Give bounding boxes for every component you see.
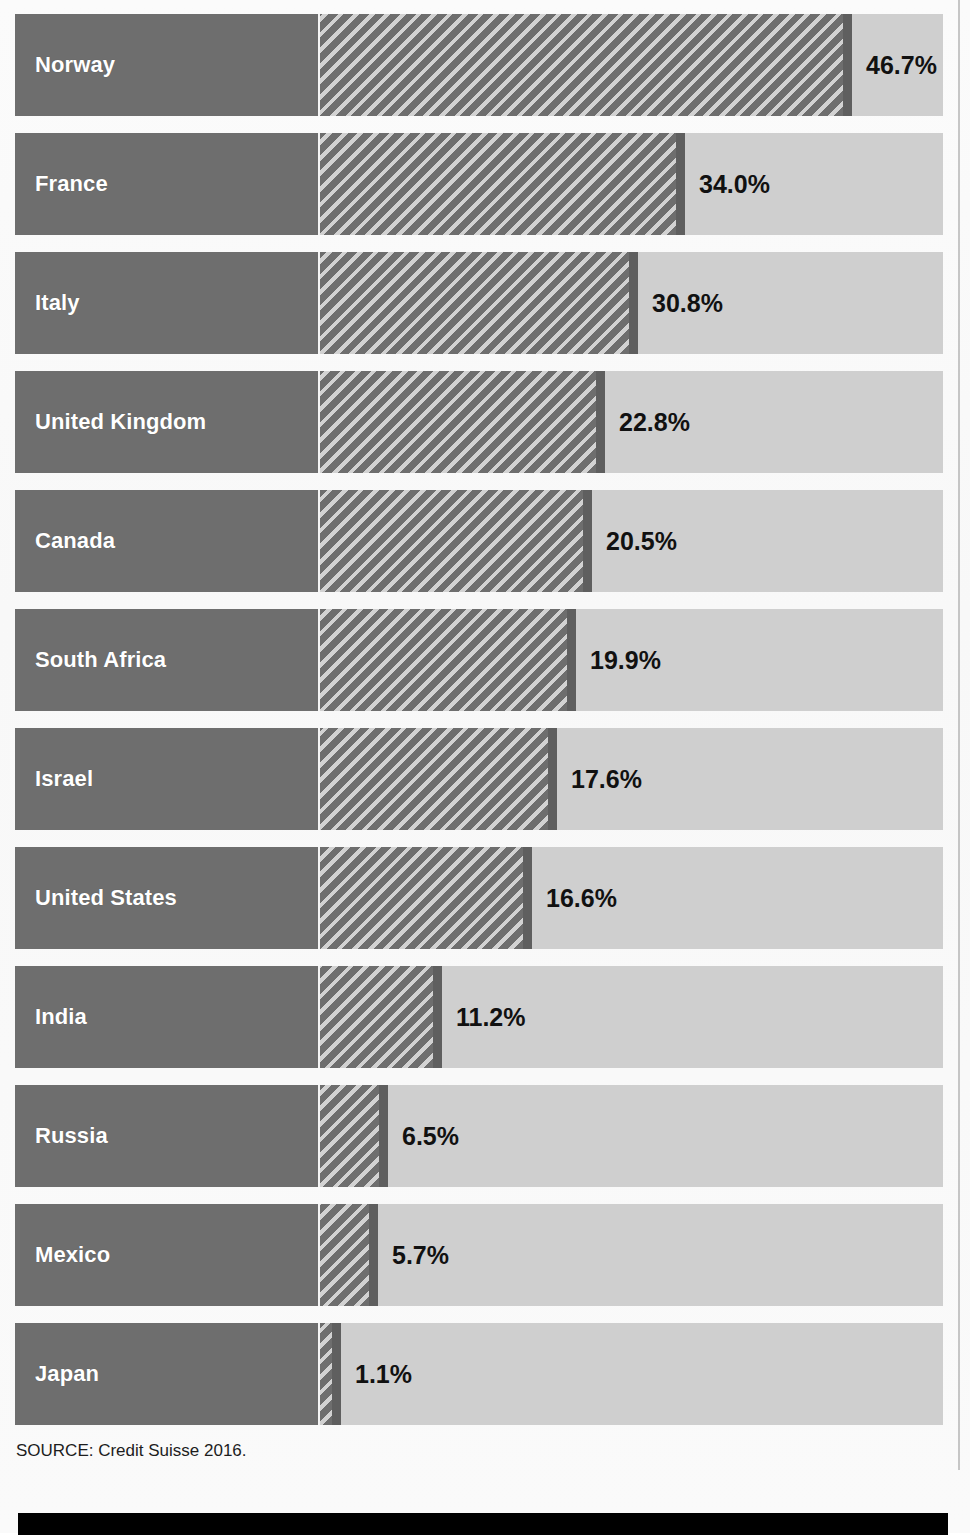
value-bar xyxy=(320,1085,388,1187)
bar-row: Norway46.7% xyxy=(15,14,943,116)
value-bar xyxy=(320,371,605,473)
category-label: United States xyxy=(15,885,177,911)
category-label-block: France xyxy=(15,133,318,235)
value-label: 16.6% xyxy=(546,847,617,949)
category-label: Canada xyxy=(15,528,115,554)
value-bar xyxy=(320,490,592,592)
bar-row: India11.2% xyxy=(15,966,943,1068)
value-bar xyxy=(320,847,532,949)
category-label-block: Italy xyxy=(15,252,318,354)
value-label: 22.8% xyxy=(619,371,690,473)
value-label: 17.6% xyxy=(571,728,642,830)
bar-row: United States16.6% xyxy=(15,847,943,949)
category-label-block: Mexico xyxy=(15,1204,318,1306)
bar-row: Mexico5.7% xyxy=(15,1204,943,1306)
bar-row: Canada20.5% xyxy=(15,490,943,592)
category-label-block: United States xyxy=(15,847,318,949)
value-bar xyxy=(320,252,638,354)
bar-row: Italy30.8% xyxy=(15,252,943,354)
category-label-block: Russia xyxy=(15,1085,318,1187)
bar-row: South Africa19.9% xyxy=(15,609,943,711)
category-label: Israel xyxy=(15,766,93,792)
bar-row: Russia6.5% xyxy=(15,1085,943,1187)
category-label-block: Israel xyxy=(15,728,318,830)
value-label: 1.1% xyxy=(355,1323,412,1425)
value-label: 30.8% xyxy=(652,252,723,354)
value-label: 46.7% xyxy=(866,14,937,116)
category-label-block: India xyxy=(15,966,318,1068)
value-bar xyxy=(320,728,557,830)
value-label: 20.5% xyxy=(606,490,677,592)
category-label: Japan xyxy=(15,1361,99,1387)
category-label-block: Norway xyxy=(15,14,318,116)
bar-row: France34.0% xyxy=(15,133,943,235)
category-label: United Kingdom xyxy=(15,409,206,435)
bar-row: Japan1.1% xyxy=(15,1323,943,1425)
value-bar xyxy=(320,609,576,711)
value-label: 19.9% xyxy=(590,609,661,711)
bar-row: United Kingdom22.8% xyxy=(15,371,943,473)
category-label-block: Japan xyxy=(15,1323,318,1425)
value-label: 6.5% xyxy=(402,1085,459,1187)
category-label: Norway xyxy=(15,52,115,78)
category-label-block: Canada xyxy=(15,490,318,592)
category-label: India xyxy=(15,1004,87,1030)
source-note: SOURCE: Credit Suisse 2016. xyxy=(16,1441,247,1461)
category-label: Mexico xyxy=(15,1242,110,1268)
value-bar xyxy=(320,133,685,235)
value-bar xyxy=(320,1323,341,1425)
bar-chart: Norway46.7%France34.0%Italy30.8%United K… xyxy=(15,14,943,1442)
footer-rule xyxy=(18,1513,948,1535)
category-label: South Africa xyxy=(15,647,166,673)
value-bar xyxy=(320,1204,378,1306)
value-label: 11.2% xyxy=(456,966,526,1068)
category-label: Russia xyxy=(15,1123,108,1149)
value-bar xyxy=(320,14,852,116)
page-right-rule xyxy=(958,0,960,1470)
category-label-block: United Kingdom xyxy=(15,371,318,473)
category-label: Italy xyxy=(15,290,80,316)
bar-row: Israel17.6% xyxy=(15,728,943,830)
value-bar xyxy=(320,966,442,1068)
category-label-block: South Africa xyxy=(15,609,318,711)
value-label: 34.0% xyxy=(699,133,770,235)
value-label: 5.7% xyxy=(392,1204,449,1306)
category-label: France xyxy=(15,171,108,197)
